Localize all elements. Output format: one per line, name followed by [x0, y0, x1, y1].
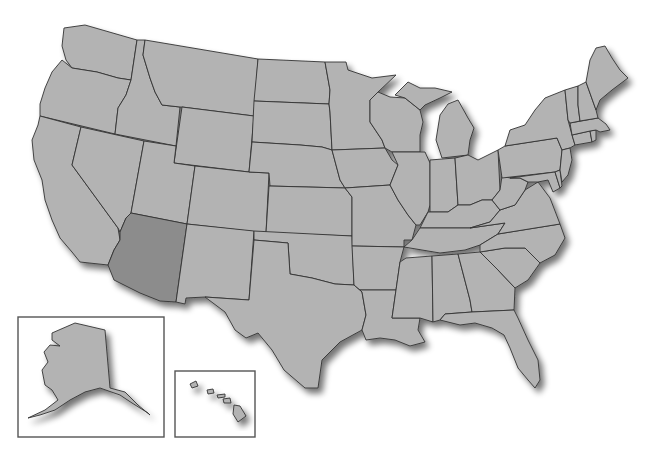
- state-ohio[interactable]: [455, 150, 500, 205]
- state-new-mexico[interactable]: [176, 224, 254, 304]
- alaska-inset: [18, 317, 164, 437]
- hawaii-inset-frame: [175, 371, 255, 437]
- state-indiana[interactable]: [430, 158, 458, 212]
- state-kansas[interactable]: [266, 186, 352, 236]
- state-arkansas[interactable]: [352, 246, 404, 290]
- state-new-jersey[interactable]: [560, 148, 572, 182]
- state-wyoming[interactable]: [174, 107, 254, 172]
- us-map-svg: [0, 0, 649, 460]
- us-map: [0, 0, 649, 460]
- hawaii-inset: [175, 371, 255, 437]
- state-iowa[interactable]: [332, 148, 398, 188]
- state-colorado[interactable]: [187, 166, 269, 233]
- state-maine[interactable]: [586, 46, 628, 110]
- state-hawaii-molokai[interactable]: [217, 394, 225, 398]
- state-hawaii-oahu[interactable]: [207, 389, 214, 394]
- state-north-dakota[interactable]: [254, 59, 330, 104]
- state-hawaii-maui[interactable]: [223, 398, 231, 403]
- state-new-york[interactable]: [505, 90, 575, 150]
- state-florida[interactable]: [440, 310, 540, 388]
